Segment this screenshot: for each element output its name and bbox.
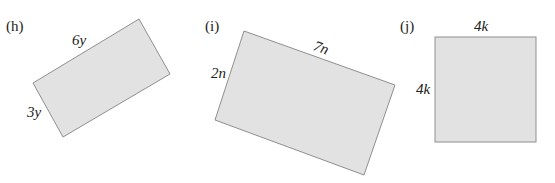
rectangle-i-short-side-label: 2n (211, 65, 226, 81)
rectangle-i (215, 31, 395, 175)
figure-j-label: (j) (400, 18, 414, 35)
figure-i: (i) 7n 2n (205, 18, 395, 175)
rectangle-h-short-side-label: 3y (26, 104, 42, 120)
square-j-top-side-label: 4k (474, 18, 489, 34)
rectangle-i-long-side-label: 7n (311, 38, 331, 58)
figure-i-label: (i) (205, 18, 219, 35)
rectangle-h-long-side-label: 6y (72, 32, 87, 48)
rectangle-h (33, 19, 170, 137)
square-j (435, 37, 536, 142)
square-j-left-side-label: 4k (416, 81, 431, 97)
figure-h-label: (h) (6, 18, 24, 35)
figure-j: (j) 4k 4k (400, 18, 536, 142)
figure-h: (h) 6y 3y (6, 18, 170, 137)
figure-canvas: (h) 6y 3y (i) 7n 2n (j) 4k 4k (0, 0, 555, 183)
